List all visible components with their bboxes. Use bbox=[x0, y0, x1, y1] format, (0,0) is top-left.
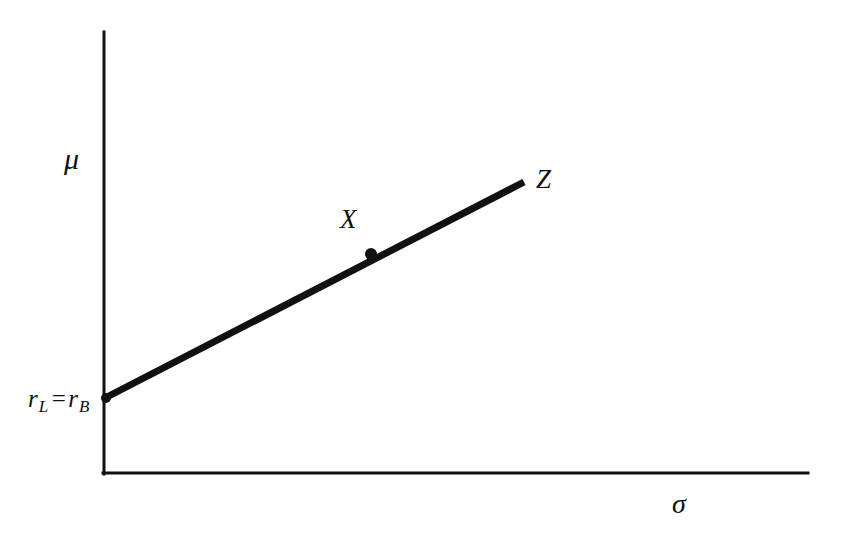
sigma-axis-label: σ bbox=[672, 490, 686, 518]
intercept-subscript-b: B bbox=[79, 397, 90, 416]
intercept-r-right: r bbox=[68, 385, 78, 412]
z-endpoint-label: Z bbox=[536, 166, 551, 193]
riskfree-intercept-point bbox=[101, 393, 111, 403]
figure-canvas: μ σ X Z rL=rB bbox=[0, 0, 842, 536]
x-point-label: X bbox=[340, 206, 357, 233]
intercept-equals-sign: = bbox=[49, 385, 69, 412]
intercept-label: rL=rB bbox=[28, 386, 90, 415]
diagram-svg bbox=[0, 0, 842, 536]
mu-axis-label: μ bbox=[64, 144, 79, 174]
intercept-r-left: r bbox=[28, 385, 38, 412]
portfolio-x-point bbox=[365, 248, 377, 260]
intercept-subscript-l: L bbox=[38, 397, 48, 416]
capital-market-line bbox=[105, 182, 524, 398]
